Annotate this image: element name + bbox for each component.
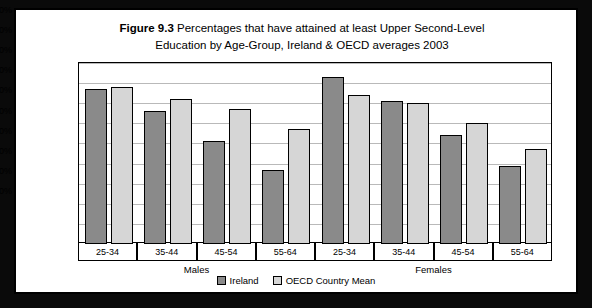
y-axis-tick-label: 10% [0,166,12,176]
x-axis-category-label: 45-54 [434,243,493,261]
bar-ireland [262,170,284,244]
bar-ireland [440,135,462,244]
figure-title-line1: Percentages that have attained at least … [177,22,485,34]
legend-label: OECD Country Mean [286,275,376,286]
bar-oecd [466,123,488,244]
bar-oecd [229,109,251,244]
figure-title-line2: Education by Age-Group, Ireland & OECD a… [155,39,448,51]
x-axis-category-label: 55-64 [256,243,315,261]
legend-item: Ireland [217,275,259,286]
x-axis-category-label: 45-54 [197,243,256,261]
bar-ireland [144,111,166,244]
y-axis-labels: 0%10%20%30%40%50%60%70%80%90% [0,10,12,191]
figure-frame: Figure 9.3 Percentages that have attaine… [14,8,578,294]
bar-oecd [111,87,133,244]
bar-ireland [499,166,521,244]
figure-number: Figure 9.3 [119,22,173,34]
bar-oecd [407,103,429,244]
bar-ireland [85,89,107,244]
y-axis-tick-label: 20% [0,146,12,156]
legend-swatch [217,276,226,285]
y-axis-tick-label: 70% [0,45,12,55]
y-axis-tick-label: 90% [0,5,12,15]
bar-oecd [288,129,310,244]
chart-legend: IrelandOECD Country Mean [16,275,576,286]
x-axis-category-label: 25-34 [78,243,137,261]
bar-oecd [348,95,370,244]
bar-ireland [203,141,225,244]
x-axis-category-label: 25-34 [315,243,374,261]
x-axis-category-label: 35-44 [374,243,433,261]
plot-area [78,62,552,243]
bar-ireland [381,101,403,244]
legend-item: OECD Country Mean [273,275,376,286]
legend-label: Ireland [230,275,259,286]
x-axis-category-label: 35-44 [137,243,196,261]
bar-oecd [170,99,192,244]
y-axis-tick-label: 80% [0,25,12,35]
bar-oecd [525,149,547,244]
y-axis-tick-label: 30% [0,126,12,136]
plot-wrapper [78,62,552,243]
y-axis-tick-label: 0% [0,186,12,196]
bar-ireland [322,77,344,244]
x-axis-category-label: 55-64 [493,243,552,261]
category-axis: 25-3435-4445-5455-6425-3435-4445-5455-64 [78,243,552,263]
y-axis-tick-label: 50% [0,85,12,95]
y-axis-tick-label: 40% [0,106,12,116]
bars-layer [79,63,553,244]
legend-swatch [273,276,282,285]
figure-title: Figure 9.3 Percentages that have attaine… [62,20,542,54]
y-axis-tick-label: 60% [0,65,12,75]
